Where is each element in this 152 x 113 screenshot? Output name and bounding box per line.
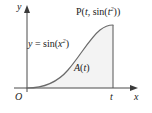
curve-equation-function: sin( <box>43 38 58 49</box>
curve-equation-equals: = <box>32 38 43 49</box>
point-label-function: sin( <box>93 6 108 17</box>
point-label-prefix: P( <box>76 6 85 17</box>
y-axis-arrowhead <box>24 5 30 13</box>
x-axis-tick-label-t: t <box>110 92 113 102</box>
point-label-close: )) <box>114 6 121 17</box>
curve-equation-close: ) <box>66 38 69 49</box>
area-label-close-paren: ) <box>86 62 89 73</box>
figure-sin-x-squared-area: P(t, sin(t2)) y = sin(x2) A(t) O x y t <box>0 0 152 113</box>
area-label-a-of-t: A(t) <box>74 63 90 73</box>
point-label-p: P(t, sin(t2)) <box>76 7 120 17</box>
y-axis-label: y <box>17 2 21 12</box>
origin-label: O <box>15 92 22 102</box>
shaded-area-region <box>27 25 113 88</box>
curve-equation-label: y = sin(x2) <box>28 39 69 49</box>
x-axis-label: x <box>134 92 138 102</box>
